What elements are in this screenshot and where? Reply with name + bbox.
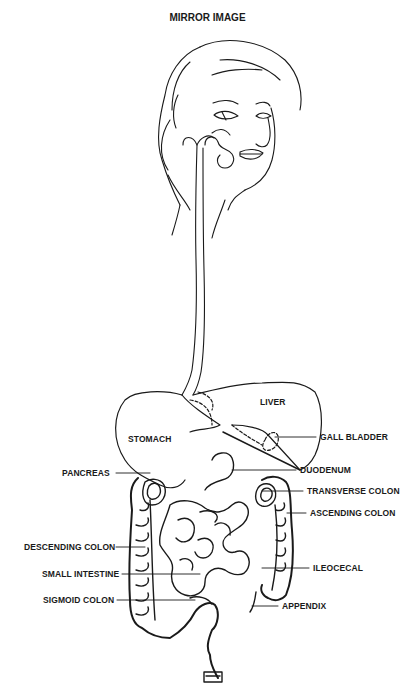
head-drawing	[159, 41, 302, 238]
digestive-system-drawing	[0, 0, 415, 690]
label-gall-bladder: GALL BLADDER	[320, 432, 388, 442]
descending-inner	[150, 500, 155, 620]
duodenum-curve	[205, 453, 234, 490]
label-pancreas: PANCREAS	[62, 468, 110, 478]
label-liver: LIVER	[260, 397, 286, 407]
label-small-intestine: SMALL INTESTINE	[42, 569, 119, 579]
descending-haustra	[136, 503, 149, 615]
label-ascending-colon: ASCENDING COLON	[310, 508, 396, 518]
hair-left	[159, 47, 200, 205]
mouth-cavity	[205, 137, 234, 168]
left-eye	[214, 111, 238, 119]
appendix	[250, 592, 256, 612]
stomach-dashed	[190, 392, 213, 425]
nose	[256, 118, 270, 147]
right-eye	[256, 113, 271, 118]
esophagus-right	[193, 148, 205, 395]
label-duodenum: DUODENUM	[300, 465, 351, 475]
left-brow	[213, 100, 238, 104]
rectum	[204, 672, 222, 682]
gall-bladder	[263, 433, 279, 451]
label-descending-colon: DESCENDING COLON	[24, 542, 115, 552]
label-transverse-colon: TRANSVERSE COLON	[307, 486, 400, 496]
cheek	[212, 129, 230, 135]
label-appendix: APPENDIX	[282, 601, 326, 611]
liver-outline	[193, 382, 321, 470]
label-stomach: STOMACH	[128, 434, 172, 444]
ascending-inner	[272, 505, 277, 590]
stomach-inner	[182, 395, 220, 432]
esophagus-left	[182, 145, 197, 395]
right-brow	[256, 102, 270, 106]
small-intestine-coils	[160, 501, 249, 596]
forehead-line	[212, 69, 262, 75]
chin	[228, 190, 245, 210]
liver-lower-edge	[223, 432, 300, 470]
label-ileocecal: ILEOCECAL	[313, 563, 363, 573]
label-sigmoid-colon: SIGMOID COLON	[43, 595, 114, 605]
intestines-drawing	[129, 453, 293, 682]
liver-dashed	[232, 425, 262, 445]
esophagus-drawing	[182, 145, 205, 395]
hair-outline	[200, 41, 301, 110]
